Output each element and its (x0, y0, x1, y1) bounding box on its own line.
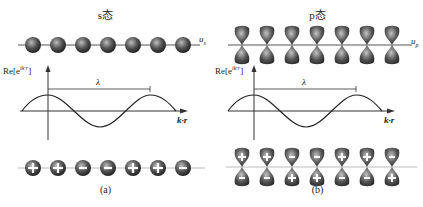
s-state-diagram (0, 0, 211, 207)
p-state-diagram (212, 0, 423, 207)
caption-b: (b) (212, 184, 423, 195)
wavelength-label: λ (302, 77, 306, 87)
x-axis-label: k·r (177, 115, 187, 125)
x-axis-label: k·r (384, 115, 394, 125)
y-axis-label: Re[eik·r] (3, 65, 31, 76)
mode-label: up (411, 36, 419, 48)
panel-p-state: p态 (212, 0, 423, 207)
caption-a: (a) (0, 184, 211, 195)
mode-label: us (199, 34, 206, 46)
y-axis-label: Re[eik·r] (215, 65, 243, 76)
wavelength-label: λ (96, 77, 100, 87)
panel-s-state: s态 (0, 0, 211, 207)
